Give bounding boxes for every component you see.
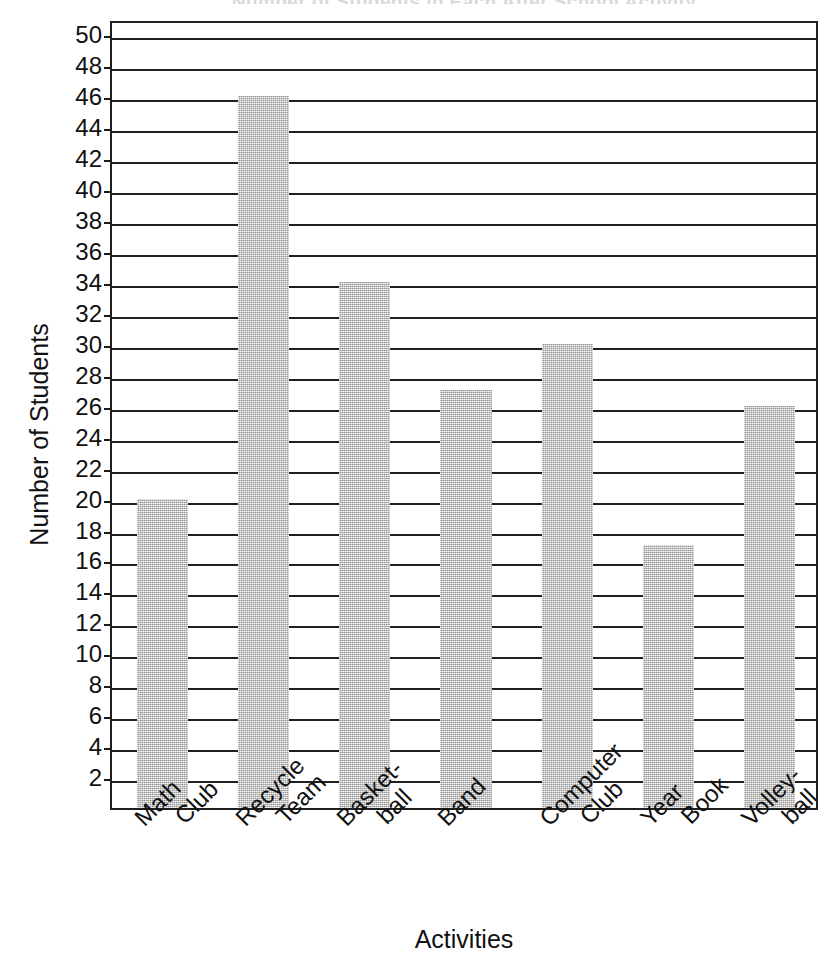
y-tick-label: 26 xyxy=(38,395,102,419)
y-tick-label: 44 xyxy=(38,116,102,140)
bar[interactable] xyxy=(339,282,390,808)
y-tick-label: 40 xyxy=(38,178,102,202)
bars-layer xyxy=(112,23,816,808)
x-axis-tick-labels: MathClubRecycleTeamBasket-ballBandComput… xyxy=(0,812,835,932)
y-tick-label: 50 xyxy=(38,23,102,47)
chart-title: Number of Students in Each After School … xyxy=(110,0,818,4)
x-axis-title: Activities xyxy=(110,925,818,954)
y-tick-label: 48 xyxy=(38,54,102,78)
y-tick-label: 20 xyxy=(38,488,102,512)
y-tick-label: 18 xyxy=(38,519,102,543)
bar-chart-figure: Number of Students in Each After School … xyxy=(0,0,835,965)
y-tick-label: 28 xyxy=(38,364,102,388)
y-tick-label: 36 xyxy=(38,240,102,264)
y-tick-label: 30 xyxy=(38,333,102,357)
plot-area xyxy=(110,21,818,810)
bar[interactable] xyxy=(744,406,795,808)
y-tick-label: 32 xyxy=(38,302,102,326)
y-tick-label: 46 xyxy=(38,85,102,109)
y-tick-label: 16 xyxy=(38,549,102,573)
y-tick-label: 34 xyxy=(38,271,102,295)
y-tick-label: 14 xyxy=(38,580,102,604)
y-tick-label: 42 xyxy=(38,147,102,171)
y-tick-label: 8 xyxy=(38,673,102,697)
y-tick-label: 2 xyxy=(38,766,102,790)
y-tick-label: 38 xyxy=(38,209,102,233)
bar[interactable] xyxy=(542,344,593,808)
y-tick-label: 24 xyxy=(38,426,102,450)
y-tick-label: 4 xyxy=(38,735,102,759)
bar[interactable] xyxy=(440,390,491,808)
y-tick-label: 12 xyxy=(38,611,102,635)
y-tick-label: 22 xyxy=(38,457,102,481)
bar[interactable] xyxy=(238,96,289,808)
y-tick-label: 6 xyxy=(38,704,102,728)
y-tick-label: 10 xyxy=(38,642,102,666)
y-axis-tick-labels: 5048464442403836343230282624222018161412… xyxy=(38,21,102,810)
